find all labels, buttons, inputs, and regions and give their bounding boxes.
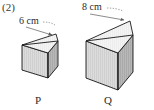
dimension-label-q: 8 cm (82, 1, 102, 12)
prism-q (86, 21, 133, 90)
solid-label-q: Q (104, 94, 112, 106)
prism-p (22, 34, 58, 78)
item-number: (2) (2, 1, 15, 13)
solid-label-p: P (35, 94, 41, 106)
dimension-label-p: 6 cm (19, 15, 39, 26)
figure-container: (2) 6 cm 8 cm P Q (0, 0, 154, 110)
